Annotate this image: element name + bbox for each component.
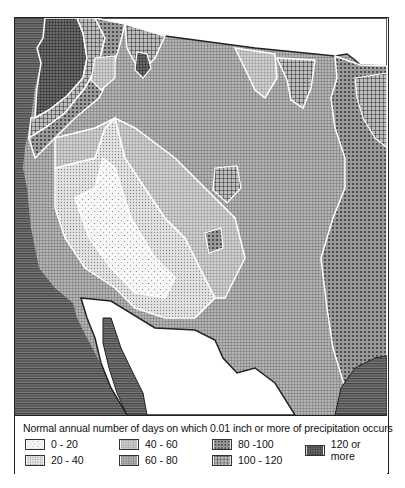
- swatch-coarse-dots-icon: [212, 439, 232, 450]
- precipitation-map: [15, 18, 387, 415]
- legend: Normal annual number of days on which 0.…: [15, 415, 387, 474]
- swatch-fine-grid-icon: [119, 439, 139, 450]
- region-80-100-colorado: [205, 228, 223, 253]
- legend-item-20-40: 20 - 40: [25, 454, 84, 466]
- map-frame: Normal annual number of days on which 0.…: [14, 17, 389, 474]
- legend-title: Normal annual number of days on which 0.…: [23, 422, 393, 434]
- swatch-coarse-grid-icon: [212, 455, 232, 466]
- swatch-dense-dots-icon: [25, 455, 45, 466]
- legend-item-80-100: 80 -100: [212, 438, 274, 450]
- legend-item-100-120: 100 - 120: [212, 454, 282, 466]
- swatch-dark-hatch-icon: [305, 445, 325, 456]
- legend-item-40-60: 40 - 60: [119, 438, 178, 450]
- legend-item-0-20: 0 - 20: [25, 438, 78, 450]
- legend-item-120-plus: 120 or more: [305, 438, 387, 462]
- legend-item-60-80: 60 - 80: [119, 454, 178, 466]
- swatch-sparse-dots-icon: [25, 439, 45, 450]
- swatch-grid-icon: [119, 455, 139, 466]
